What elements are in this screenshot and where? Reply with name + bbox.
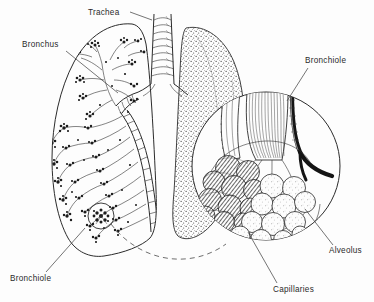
label-trachea: Trachea <box>88 8 120 17</box>
label-bronchus: Bronchus <box>22 40 59 49</box>
label-capillaries: Capillaries <box>273 285 314 294</box>
lung-diagram: Trachea Bronchus Bronchiole Alveolus Cap… <box>0 0 374 302</box>
diagram-canvas: Trachea Bronchus Bronchiole Alveolus Cap… <box>0 0 374 302</box>
bronchiole-tube <box>221 92 289 160</box>
label-bronchiole-left: Bronchiole <box>10 274 51 283</box>
label-alveolus: Alveolus <box>329 246 362 255</box>
label-bronchiole-right: Bronchiole <box>305 56 346 65</box>
